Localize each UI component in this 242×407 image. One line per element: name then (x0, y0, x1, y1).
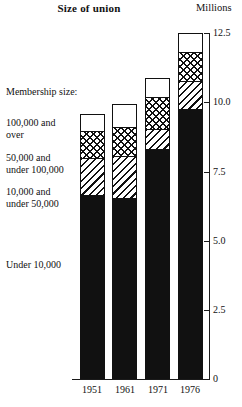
x-axis-label-1976: 1976 (170, 384, 210, 395)
bar-segment-50000-under-100000 (145, 97, 170, 129)
y-tick-label-10-0: 10.0 (213, 97, 231, 107)
chart-figure: Size of union Millions Membership size: … (0, 0, 242, 407)
bar-segment-10000-under-50000 (112, 156, 137, 198)
bar-divider-1 (145, 97, 170, 98)
plot-area: 12.5 10.0 7.5 5.0 2.5 0 (0, 0, 242, 407)
bar-divider-1 (112, 127, 137, 128)
bar-segment-50000-under-100000 (112, 127, 137, 156)
bar-divider-2 (80, 158, 105, 159)
y-tick-2-5 (204, 310, 210, 311)
y-tick-label-0: 0 (213, 374, 218, 384)
y-tick-label-2-5: 2.5 (213, 305, 226, 315)
x-axis-baseline (72, 379, 210, 380)
y-tick-10-0 (204, 102, 210, 103)
bar-divider-2 (145, 129, 170, 130)
y-tick-7-5 (204, 172, 210, 173)
bar-divider-2 (178, 81, 203, 82)
y-tick-12-5 (204, 33, 210, 34)
bar-1951 (80, 114, 105, 379)
bar-segment-100000-and-over (80, 114, 105, 132)
bar-segment-under-10000 (80, 195, 105, 379)
bar-1961 (112, 104, 137, 379)
bar-segment-under-10000 (145, 149, 170, 379)
y-tick-5-0 (204, 241, 210, 242)
bar-divider-1 (80, 131, 105, 132)
bar-segment-100000-and-over (178, 33, 203, 53)
bar-segment-100000-and-over (145, 78, 170, 98)
bar-1971 (145, 78, 170, 379)
y-tick-label-5-0: 5.0 (213, 236, 226, 246)
y-tick-label-12-5: 12.5 (213, 28, 231, 38)
bar-divider-2 (112, 156, 137, 157)
y-axis-line (209, 33, 210, 380)
bar-segment-under-10000 (112, 198, 137, 379)
bar-segment-10000-under-50000 (145, 129, 170, 149)
bar-segment-100000-and-over (112, 104, 137, 128)
bar-1976 (178, 33, 203, 379)
bar-segment-50000-under-100000 (80, 131, 105, 158)
bar-segment-50000-under-100000 (178, 52, 203, 81)
bar-segment-under-10000 (178, 109, 203, 379)
bar-divider-1 (178, 52, 203, 53)
bar-segment-10000-under-50000 (80, 158, 105, 195)
y-tick-label-7-5: 7.5 (213, 167, 226, 177)
bar-segment-10000-under-50000 (178, 81, 203, 109)
